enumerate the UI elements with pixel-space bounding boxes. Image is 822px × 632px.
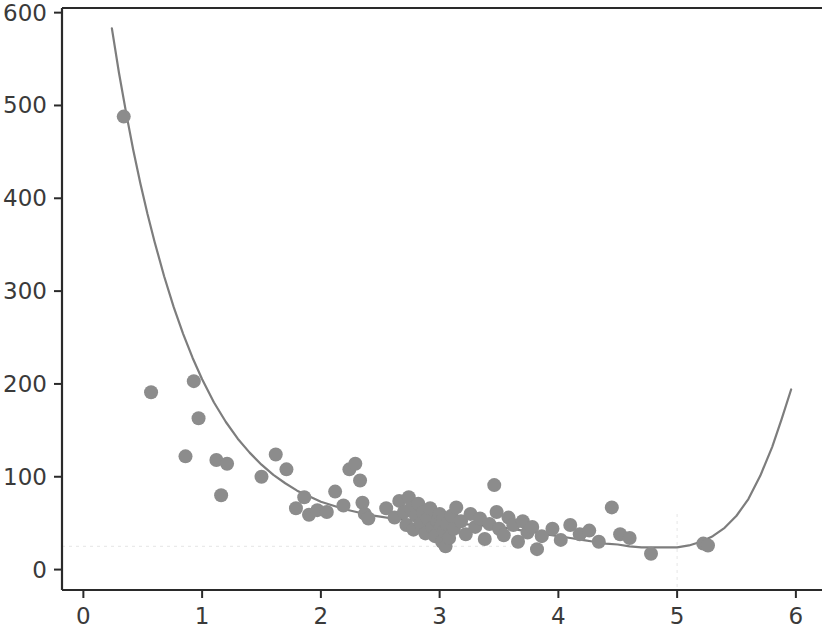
data-point [328,485,342,499]
data-point [214,488,228,502]
x-axis-ticks-group: 0123456 [76,590,803,629]
y-tick-label: 400 [3,185,47,211]
y-tick-label: 500 [3,92,47,118]
x-tick-label: 2 [314,603,329,629]
data-point [478,532,492,546]
data-point [297,490,311,504]
x-tick-label: 1 [195,603,210,629]
data-point [554,533,568,547]
fitted-curve-group [112,28,791,547]
data-points-group [117,110,715,561]
data-point [623,531,637,545]
data-point [545,522,559,536]
data-point [179,449,193,463]
data-point [361,512,375,526]
y-tick-label: 200 [3,371,47,397]
data-point [644,547,658,561]
data-point [279,462,293,476]
data-point [592,535,606,549]
x-tick-label: 6 [789,603,804,629]
data-point [449,500,463,514]
data-point [605,500,619,514]
data-point [348,457,362,471]
data-point [487,478,501,492]
data-point [117,110,131,124]
data-point [336,499,350,513]
data-point [320,505,334,519]
data-point [269,447,283,461]
y-tick-label: 0 [32,557,47,583]
data-point [582,524,596,538]
data-point [701,538,715,552]
x-tick-label: 0 [76,603,91,629]
data-point [289,501,303,515]
x-tick-label: 5 [670,603,685,629]
data-point [490,505,504,519]
y-axis-ticks-group: 0100200300400500600 [3,0,62,583]
plot-canvas: 0100200300400500600 0123456 [0,0,822,632]
data-point [255,470,269,484]
data-point [353,473,367,487]
scatter-plot-figure: 0100200300400500600 0123456 [0,0,822,632]
data-point [192,411,206,425]
data-point [187,374,201,388]
x-tick-label: 3 [432,603,447,629]
data-point [220,457,234,471]
axes-spines-group [62,8,822,590]
data-point [144,385,158,399]
data-point [497,528,511,542]
data-point [530,542,544,556]
y-tick-label: 600 [3,0,47,26]
y-tick-label: 100 [3,464,47,490]
x-tick-label: 4 [551,603,566,629]
y-tick-label: 300 [3,278,47,304]
fitted-curve [112,28,791,547]
